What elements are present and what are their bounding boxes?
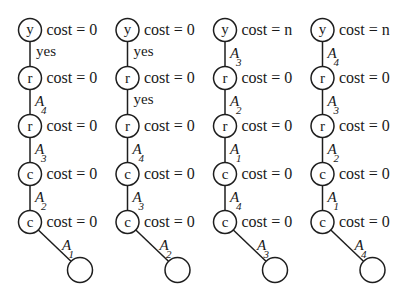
node-label: y — [319, 21, 327, 37]
node-label: y — [124, 21, 132, 37]
node-label: y — [26, 21, 34, 37]
edge-label-subscript: 2 — [236, 104, 242, 116]
node-label: c — [27, 166, 34, 182]
node-cost: cost = 0 — [47, 165, 98, 182]
node-cost: cost = 0 — [47, 21, 98, 38]
node-label: r — [28, 118, 33, 134]
node-cost: cost = 0 — [144, 117, 195, 134]
leaf-node — [263, 258, 288, 283]
edge-label-subscript: 4 — [334, 56, 340, 68]
node-label: c — [124, 166, 131, 182]
edge-label-subscript: 4 — [361, 248, 367, 260]
node-label: c — [27, 214, 34, 230]
node-cost: cost = 0 — [242, 69, 293, 86]
node-cost: cost = 0 — [242, 165, 293, 182]
node-label: r — [125, 70, 130, 86]
node-cost: cost = n — [339, 21, 390, 38]
node-cost: cost = 0 — [144, 21, 195, 38]
node-cost: cost = 0 — [339, 69, 390, 86]
edge-label-yes: yes — [36, 43, 56, 59]
node-label: y — [221, 21, 229, 37]
edge-label-subscript: 3 — [40, 152, 47, 164]
leaf-node — [165, 258, 190, 283]
node-label: r — [125, 118, 130, 134]
node-cost: cost = 0 — [144, 69, 195, 86]
node-cost: cost = 0 — [339, 165, 390, 182]
leaf-node — [68, 258, 93, 283]
tree-1: y r r c c cost = 0 cost = 0 cost = 0 cos… — [19, 19, 98, 283]
node-label: c — [222, 166, 229, 182]
edge-label-subscript: 2 — [334, 152, 340, 164]
node-cost: cost = 0 — [47, 69, 98, 86]
tree-3: y r r c c cost = n cost = 0 cost = 0 cos… — [214, 19, 293, 283]
node-label: r — [223, 70, 228, 86]
edge-label-subscript: 3 — [333, 104, 340, 116]
tree-2: y r r c c cost = 0 cost = 0 cost = 0 cos… — [116, 19, 195, 283]
edge-label-subscript: 1 — [334, 200, 340, 212]
node-cost: cost = 0 — [144, 213, 195, 230]
leaf-node — [360, 258, 385, 283]
edge-label-subscript: 3 — [235, 56, 242, 68]
node-cost: cost = 0 — [242, 213, 293, 230]
node-cost: cost = n — [242, 21, 293, 38]
node-label: c — [222, 214, 229, 230]
node-cost: cost = 0 — [339, 213, 390, 230]
node-cost: cost = 0 — [339, 117, 390, 134]
edge-label-subscript: 2 — [41, 200, 47, 212]
edge-label-yes: yes — [134, 91, 154, 107]
node-label: c — [319, 166, 326, 182]
edge-label-subscript: 4 — [139, 152, 145, 164]
node-label: r — [223, 118, 228, 134]
edge-label-subscript: 4 — [236, 200, 242, 212]
node-label: c — [124, 214, 131, 230]
edge-label-subscript: 1 — [236, 152, 242, 164]
edge-label-subscript: 1 — [69, 248, 75, 260]
search-trees-diagram: y r r c c cost = 0 cost = 0 cost = 0 cos… — [0, 0, 405, 299]
node-cost: cost = 0 — [144, 165, 195, 182]
edge-label-subscript: 4 — [41, 104, 47, 116]
node-label: r — [28, 70, 33, 86]
tree-4: y r r c c cost = n cost = 0 cost = 0 cos… — [311, 19, 390, 283]
edge-label-yes: yes — [134, 43, 154, 59]
node-label: r — [320, 118, 325, 134]
edge-label-subscript: 3 — [263, 248, 270, 260]
edge-label-subscript: 3 — [138, 200, 145, 212]
node-cost: cost = 0 — [47, 117, 98, 134]
node-label: c — [319, 214, 326, 230]
edge-label-subscript: 2 — [166, 248, 172, 260]
node-cost: cost = 0 — [242, 117, 293, 134]
node-cost: cost = 0 — [47, 213, 98, 230]
node-label: r — [320, 70, 325, 86]
